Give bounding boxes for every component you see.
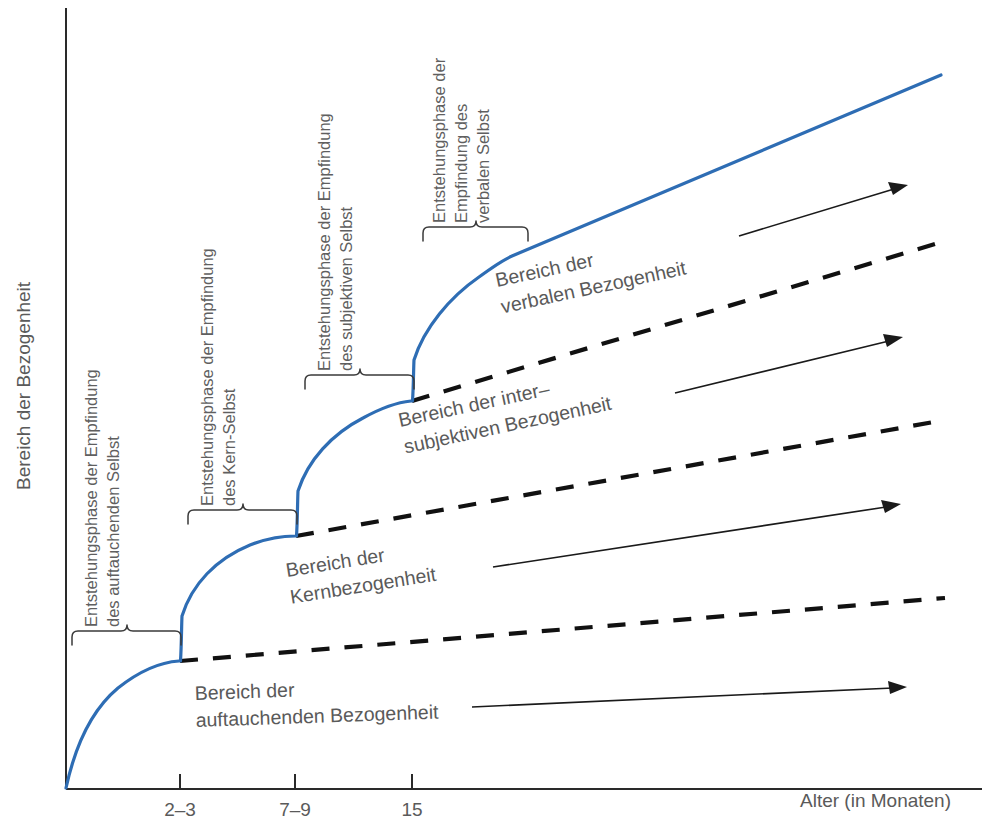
region-label-kernbezogenheit: Bereich der Kernbezogenheit [284,536,438,608]
x-tick-label-1: 7–9 [279,799,311,820]
x-tick-label-0: 2–3 [164,799,196,820]
region-label-intersubjektive-bezogenheit: Bereich der inter– subjektiven Bezogenhe… [396,365,614,457]
arrow-shaft [739,189,894,236]
bracket-kern-selbst [188,504,297,524]
arrow-shaft [675,341,889,393]
region-label-verbale-bezogenheit: Bereich der verbalen Bezogenheit [493,230,688,317]
bracket-verbales-selbst [423,221,528,241]
x-axis-ticks [180,774,412,789]
arrow-intersubjektiv [675,334,903,393]
phase-label-line: des Kern-Selbst [220,388,238,506]
region-label-line: auftauchenden Bezogenheit [195,700,439,730]
region-label-auftauchende-bezogenheit: Bereich der auftauchenden Bezogenheit [194,674,439,731]
x-axis-label: Alter (in Monaten) [800,790,951,811]
phase-label-line: Entstehungsphase der Empfindung [82,369,100,627]
phase-label-kern-selbst: Entstehungsphase der Empfindung des Kern… [198,248,238,506]
phase-label-verbales-selbst: Entstehungsphase der Empfindung des verb… [430,57,492,223]
phase-label-line: des auftauchenden Selbst [104,436,122,627]
arrow-head [883,334,903,347]
phase-label-line: des subjektiven Selbst [337,206,355,371]
figure-canvas: 2–3 7–9 15 Bereich der Bezogenheit Alter… [0,0,986,829]
phase-label-line: Entstehungsphase der Empfindung [198,248,216,506]
relatedness-diagram: 2–3 7–9 15 Bereich der Bezogenheit Alter… [0,0,986,829]
arrow-verbal [739,182,908,236]
divider-line-1 [180,598,945,661]
bracket-auftauchendes-selbst [72,625,181,645]
phase-label-line: verbalen Selbst [474,109,492,223]
arrow-auftauchende [472,681,907,707]
phase-label-line: Entstehungsphase der [430,57,448,223]
bracket-subjektives-selbst [305,369,414,389]
region-label-line: Bereich der [194,679,295,704]
phase-label-line: Entstehungsphase der Empfindung [315,113,333,371]
phase-label-subjektives-selbst: Entstehungsphase der Empfindung des subj… [315,113,355,371]
arrow-shaft [472,688,893,707]
arrow-shaft [493,507,886,567]
y-axis-label: Bereich der Bezogenheit [13,281,34,490]
phase-label-auftauchendes-selbst: Entstehungsphase der Empfindung des auft… [82,369,122,627]
arrow-head [888,182,908,195]
arrow-head [888,681,907,694]
arrow-kern [493,500,901,567]
x-tick-label-2: 15 [401,799,422,820]
divider-line-2 [296,420,945,536]
phase-label-line: Empfindung des [452,104,470,223]
arrow-head [881,500,901,513]
